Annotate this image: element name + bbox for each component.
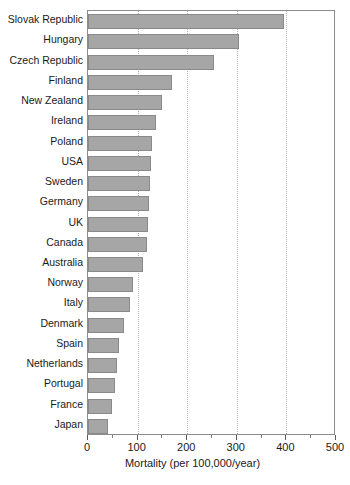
- x-tick-major-500: [335, 435, 336, 440]
- bars-layer: [88, 11, 334, 434]
- bar-row: [88, 72, 336, 93]
- bar: [88, 297, 130, 312]
- bar-row: [88, 11, 336, 32]
- category-label: Ireland: [0, 115, 83, 126]
- bar-row: [88, 355, 336, 376]
- bar: [88, 34, 239, 49]
- category-label: Sweden: [0, 176, 83, 187]
- category-label: Finland: [0, 75, 83, 86]
- bar: [88, 257, 143, 272]
- category-label: Norway: [0, 277, 83, 288]
- bar-row: [88, 213, 336, 234]
- x-tick-label: 400: [276, 441, 294, 454]
- x-axis-title: Mortality (per 100,000/year): [0, 457, 350, 469]
- x-tick-minor-250: [211, 435, 212, 438]
- x-tick-minor-50: [112, 435, 113, 438]
- x-tick-label: 300: [227, 441, 245, 454]
- x-tick-major-200: [186, 435, 187, 440]
- bar-row: [88, 274, 336, 295]
- bar-row: [88, 31, 336, 52]
- x-tick-major-0: [87, 435, 88, 440]
- x-tick-minor-150: [161, 435, 162, 438]
- mortality-bar-chart: Slovak RepublicHungaryCzech RepublicFinl…: [0, 0, 350, 485]
- bar: [88, 14, 284, 29]
- bar: [88, 338, 119, 353]
- x-tick-minor-350: [261, 435, 262, 438]
- bar-row: [88, 396, 336, 417]
- bar: [88, 75, 172, 90]
- bar-row: [88, 234, 336, 255]
- category-label: Czech Republic: [0, 55, 83, 66]
- category-label: Spain: [0, 338, 83, 349]
- bar: [88, 176, 150, 191]
- bar: [88, 318, 124, 333]
- bar-row: [88, 193, 336, 214]
- bar-row: [88, 173, 336, 194]
- bar: [88, 95, 162, 110]
- x-tick-label: 100: [127, 441, 145, 454]
- x-tick-minor-450: [310, 435, 311, 438]
- bar: [88, 196, 149, 211]
- x-tick-major-100: [137, 435, 138, 440]
- bar-row: [88, 335, 336, 356]
- category-label: Slovak Republic: [0, 14, 83, 25]
- bar-row: [88, 112, 336, 133]
- category-label: Germany: [0, 196, 83, 207]
- category-label: Denmark: [0, 318, 83, 329]
- category-axis-labels: Slovak RepublicHungaryCzech RepublicFinl…: [0, 10, 83, 435]
- bar: [88, 419, 108, 434]
- x-tick-major-400: [285, 435, 286, 440]
- bar: [88, 136, 152, 151]
- category-label: Canada: [0, 237, 83, 248]
- x-tick-label: 0: [84, 441, 90, 454]
- bar-row: [88, 153, 336, 174]
- bar: [88, 277, 133, 292]
- x-axis: 0100200300400500: [87, 435, 335, 459]
- bar-row: [88, 132, 336, 153]
- plot-area: [87, 10, 335, 435]
- category-label: France: [0, 399, 83, 410]
- category-label: Japan: [0, 419, 83, 430]
- bar-row: [88, 51, 336, 72]
- x-tick-label: 500: [326, 441, 344, 454]
- category-label: Australia: [0, 257, 83, 268]
- bar-row: [88, 375, 336, 396]
- x-tick-label: 200: [177, 441, 195, 454]
- bar: [88, 115, 156, 130]
- bar-row: [88, 254, 336, 275]
- bar-row: [88, 294, 336, 315]
- category-label: Hungary: [0, 34, 83, 45]
- category-label: UK: [0, 217, 83, 228]
- bar: [88, 378, 115, 393]
- category-label: Netherlands: [0, 358, 83, 369]
- category-label: Poland: [0, 136, 83, 147]
- bar-row: [88, 416, 336, 437]
- bar: [88, 217, 148, 232]
- bar: [88, 55, 214, 70]
- category-label: USA: [0, 156, 83, 167]
- x-tick-major-300: [236, 435, 237, 440]
- bar-row: [88, 315, 336, 336]
- bar: [88, 358, 117, 373]
- bar: [88, 156, 151, 171]
- bar-row: [88, 92, 336, 113]
- category-label: New Zealand: [0, 95, 83, 106]
- category-label: Portugal: [0, 378, 83, 389]
- bar: [88, 237, 147, 252]
- bar: [88, 399, 112, 414]
- category-label: Italy: [0, 297, 83, 308]
